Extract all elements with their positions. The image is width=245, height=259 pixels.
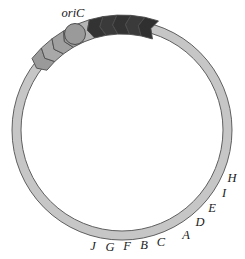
gene-label-f: F [122, 239, 131, 253]
gene-label-c: C [157, 235, 166, 249]
figure-background [0, 0, 245, 259]
gene-label-e: E [207, 201, 216, 215]
chromosome-diagram: oriC JGFBCADEIH [0, 0, 245, 259]
gene-label-b: B [140, 238, 148, 252]
gene-label-a: A [181, 228, 190, 242]
gene-label-d: D [194, 215, 204, 229]
oric-marker [65, 24, 86, 45]
figure-root: oriC JGFBCADEIH [0, 0, 245, 259]
oric-label: oriC [62, 6, 86, 20]
gene-label-h: H [226, 171, 237, 185]
gene-label-i: I [221, 186, 227, 200]
gene-label-g: G [105, 240, 114, 254]
